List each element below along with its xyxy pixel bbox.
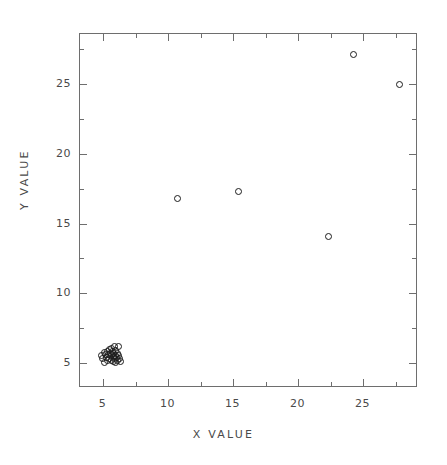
x-axis-tick-major-top <box>298 34 299 41</box>
scatter-plot-figure: Y VALUE X VALUE 510152025510152025 <box>0 0 447 465</box>
y-axis-tick-minor <box>80 328 84 329</box>
x-axis-tick-major-top <box>103 34 104 41</box>
y-axis-tick-minor-right <box>412 119 416 120</box>
x-axis-tick-minor-top <box>396 34 397 38</box>
x-axis-tick-minor <box>266 382 267 386</box>
y-axis-tick-label: 20 <box>47 147 71 158</box>
y-axis-tick-major <box>80 84 87 85</box>
y-axis-tick-major-right <box>409 293 416 294</box>
y-axis-tick-minor-right <box>412 258 416 259</box>
data-point-marker <box>174 195 181 202</box>
x-axis-tick-minor <box>331 382 332 386</box>
data-point-marker <box>350 51 357 58</box>
y-axis-tick-major <box>80 154 87 155</box>
x-axis-tick-label: 20 <box>290 398 305 409</box>
plot-area <box>80 34 416 386</box>
x-axis-tick-minor <box>201 382 202 386</box>
x-axis-tick-minor-top <box>266 34 267 38</box>
x-axis-tick-major <box>298 379 299 386</box>
x-axis-title: X VALUE <box>0 428 447 441</box>
y-axis-tick-major-right <box>409 363 416 364</box>
x-axis-tick-minor <box>136 382 137 386</box>
y-axis-tick-major-right <box>409 224 416 225</box>
y-axis-tick-major-right <box>409 84 416 85</box>
x-axis-tick-minor <box>396 382 397 386</box>
data-point-marker <box>115 343 122 350</box>
data-point-marker <box>325 233 332 240</box>
y-axis-tick-major <box>80 293 87 294</box>
y-axis-tick-label: 25 <box>47 78 71 89</box>
data-point-marker <box>235 188 242 195</box>
data-point-marker <box>117 358 124 365</box>
y-axis-tick-minor <box>80 119 84 120</box>
y-axis-tick-minor-right <box>412 328 416 329</box>
y-axis-tick-label: 5 <box>47 356 71 367</box>
y-axis-tick-minor-right <box>412 49 416 50</box>
data-point-marker <box>396 81 403 88</box>
plot-frame <box>79 33 417 387</box>
y-axis-tick-major-right <box>409 154 416 155</box>
y-axis-tick-label: 10 <box>47 287 71 298</box>
y-axis-tick-minor <box>80 49 84 50</box>
y-axis-tick-major <box>80 224 87 225</box>
x-axis-tick-major-top <box>233 34 234 41</box>
x-axis-tick-major <box>103 379 104 386</box>
y-axis-tick-minor <box>80 189 84 190</box>
x-axis-tick-label: 15 <box>225 398 240 409</box>
x-axis-tick-minor-top <box>331 34 332 38</box>
y-axis-tick-minor-right <box>412 189 416 190</box>
x-axis-tick-minor-top <box>201 34 202 38</box>
y-axis-title: Y VALUE <box>18 149 31 210</box>
x-axis-tick-major-top <box>168 34 169 41</box>
x-axis-tick-major-top <box>363 34 364 41</box>
y-axis-tick-major <box>80 363 87 364</box>
y-axis-tick-minor <box>80 258 84 259</box>
x-axis-tick-label: 5 <box>99 398 107 409</box>
x-axis-tick-label: 25 <box>355 398 370 409</box>
x-axis-tick-label: 10 <box>160 398 175 409</box>
x-axis-tick-major <box>233 379 234 386</box>
y-axis-tick-label: 15 <box>47 217 71 228</box>
x-axis-tick-major <box>363 379 364 386</box>
x-axis-tick-minor-top <box>136 34 137 38</box>
x-axis-tick-major <box>168 379 169 386</box>
